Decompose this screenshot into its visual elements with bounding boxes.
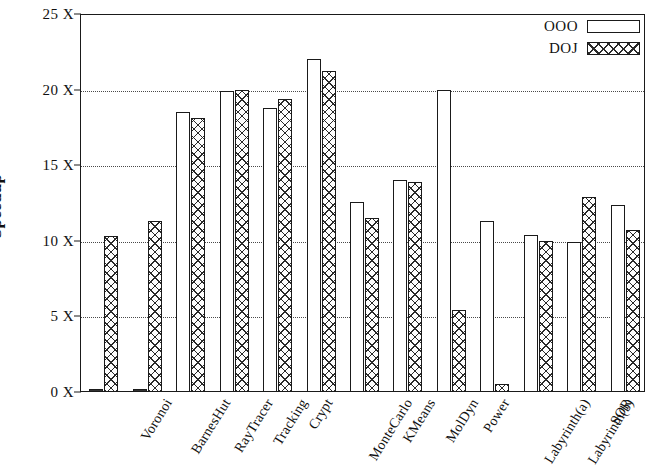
bar-group [133,14,162,392]
bar-ooo-barneshut [133,389,147,392]
y-tick-label: 25 X [42,6,74,23]
bar-group [350,14,379,392]
bar-doj-labyrinth-a [495,384,509,392]
bar-group [89,14,118,392]
bar-ooo-labyrinth-a [480,221,494,392]
bar-doj-sor [582,197,596,392]
bar-doj-kmeans [365,218,379,392]
bar-ooo-mergesort [611,205,625,392]
x-tick-label: Voronoi [137,396,175,444]
bar-doj-mergesort [626,230,640,392]
legend-label-doj: DOJ [549,40,578,57]
y-tick-label: 10 X [42,232,74,249]
y-tick-label: 15 X [42,157,74,174]
bar-ooo-raytracer [176,112,190,392]
legend-entry-ooo: OOO [544,18,640,35]
bar-group [263,14,292,392]
bar-doj-barneshut [148,221,162,392]
bar-doj-power [452,310,466,392]
bar-ooo-kmeans [350,202,364,393]
bar-doj-voronoi [104,236,118,392]
bar-doj-tracking [235,90,249,392]
bar-ooo-montecarlo [307,59,321,392]
x-tick-label: RayTracer [231,396,277,456]
bar-group [437,14,466,392]
x-tick-label: Crypt [305,396,336,432]
bar-ooo-moldyn [393,180,407,392]
bar-group [393,14,422,392]
bar-group [480,14,509,392]
x-tick-label: MolDyn [443,396,482,446]
y-tick-label: 20 X [42,81,74,98]
bar-ooo-labyrinth-b [524,235,538,392]
y-tick-label: 0 X [50,384,74,401]
bars-layer [80,14,645,392]
bar-ooo-sor [567,242,581,392]
speedup-bar-chart: Speedup 0 X5 X10 X15 X20 X25 X VoronoiBa… [0,0,666,473]
legend-entry-doj: DOJ [544,40,640,57]
y-axis: Speedup 0 X5 X10 X15 X20 X25 X [0,0,74,473]
bar-doj-montecarlo [322,71,336,392]
bar-ooo-tracking [220,91,234,392]
y-tick-label: 5 X [50,308,74,325]
x-axis-labels: VoronoiBarnesHutRayTracerTrackingCryptMo… [80,396,645,473]
legend: OOO DOJ [544,18,640,57]
bar-group [307,14,336,392]
bar-ooo-crypt [263,108,277,392]
bar-ooo-voronoi [89,389,103,392]
x-tick-label: Power [481,396,514,436]
bar-group [567,14,596,392]
y-axis-title: Speedup [0,174,6,238]
legend-label-ooo: OOO [544,18,578,35]
bar-doj-raytracer [191,118,205,392]
legend-swatch-ooo-icon [587,20,640,33]
bar-doj-labyrinth-b [539,241,553,392]
bar-doj-moldyn [408,182,422,392]
bar-group [611,14,640,392]
bar-group [220,14,249,392]
bar-ooo-power [437,90,451,392]
x-tick-label: BarnesHut [188,396,234,457]
legend-swatch-doj-icon [587,42,640,55]
bar-doj-crypt [278,99,292,392]
bar-group [176,14,205,392]
bar-group [524,14,553,392]
